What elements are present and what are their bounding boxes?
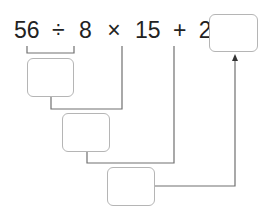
arrow-up-icon xyxy=(232,54,238,61)
step3-box[interactable] xyxy=(107,167,155,206)
step2-box[interactable] xyxy=(62,113,110,152)
answer-box[interactable] xyxy=(209,14,258,52)
step1-box[interactable] xyxy=(27,58,74,97)
bracket-56-div-8 xyxy=(27,46,74,53)
connector-step3-to-answer xyxy=(155,60,235,186)
